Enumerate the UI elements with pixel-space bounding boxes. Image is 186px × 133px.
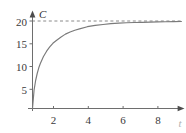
- y-tick-label-10: 10: [16, 61, 28, 73]
- y-axis-arrow-icon: [30, 11, 36, 18]
- curve-series-c: [33, 22, 182, 109]
- y-axis-label: C: [39, 8, 47, 20]
- chart-svg: 20 15 10 5 2 4 6 8 C t: [0, 0, 186, 133]
- x-axis-arrow-icon: [178, 106, 185, 112]
- x-tick-label-6: 6: [120, 114, 126, 126]
- x-tick-label-4: 4: [86, 114, 92, 126]
- chart-figure: 20 15 10 5 2 4 6 8 C t: [0, 0, 186, 133]
- y-tick-label-15: 15: [16, 38, 28, 50]
- x-axis-label: t: [178, 117, 182, 129]
- x-tick-label-2: 2: [51, 114, 57, 126]
- y-tick-label-5: 5: [22, 84, 28, 96]
- x-tick-label-8: 8: [155, 114, 161, 126]
- y-tick-label-20: 20: [16, 16, 28, 28]
